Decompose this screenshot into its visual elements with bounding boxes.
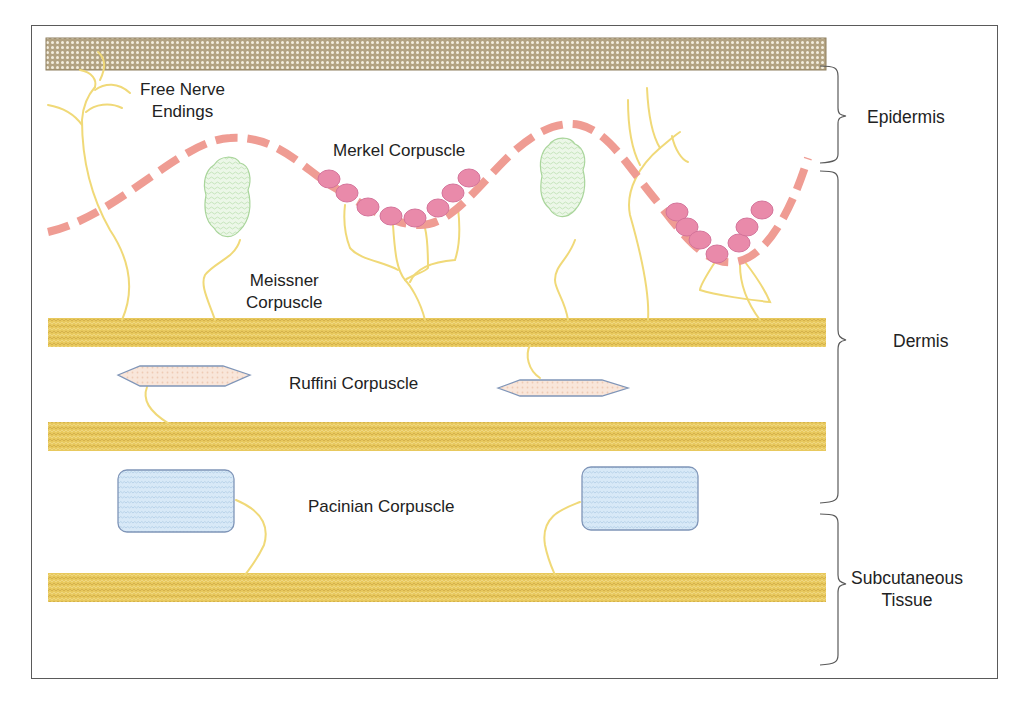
label-ruffini-corpuscle: Ruffini Corpuscle (289, 373, 418, 395)
label-pacinian-corpuscle: Pacinian Corpuscle (308, 496, 454, 518)
region-label-dermis: Dermis (893, 330, 948, 352)
region-label-epidermis: Epidermis (867, 106, 945, 128)
label-meissner-corpuscle: Meissner Corpuscle (246, 270, 323, 314)
label-merkel-corpuscle: Merkel Corpuscle (333, 140, 465, 162)
region-label-subcutaneous-line2: Tissue (851, 589, 963, 611)
label-meissner-line1: Meissner (246, 270, 323, 292)
label-meissner-line2: Corpuscle (246, 292, 323, 314)
label-free-nerve-line2: Endings (140, 101, 225, 123)
label-free-nerve-endings: Free Nerve Endings (140, 79, 225, 123)
region-label-subcutaneous: Subcutaneous Tissue (851, 567, 963, 611)
label-free-nerve-line1: Free Nerve (140, 79, 225, 101)
region-label-subcutaneous-line1: Subcutaneous (851, 567, 963, 589)
